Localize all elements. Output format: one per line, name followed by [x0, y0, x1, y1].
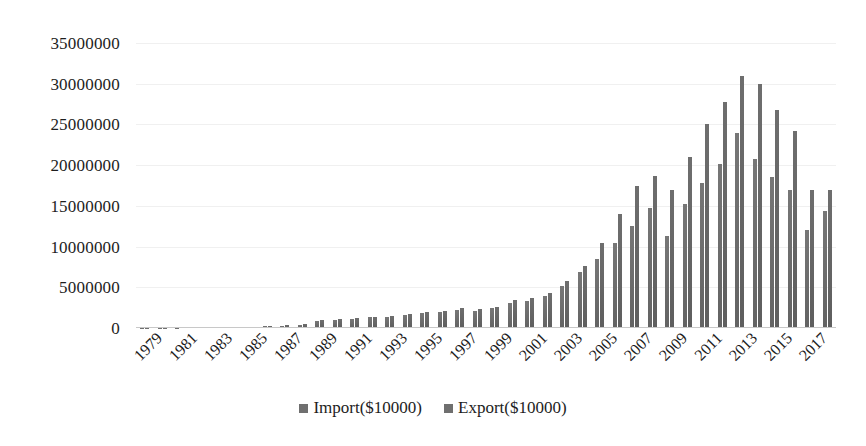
bar-group	[661, 43, 679, 328]
bar-export	[705, 124, 709, 328]
bar-group	[679, 43, 697, 328]
bar-export	[670, 190, 674, 328]
bar-group	[451, 43, 469, 328]
bar-export	[443, 311, 447, 329]
bar-group	[714, 43, 732, 328]
bar-group	[749, 43, 767, 328]
x-axis-tick-label: 1995	[411, 330, 445, 364]
bar-export	[828, 190, 832, 328]
x-axis-tick-label: 1989	[306, 330, 340, 364]
y-axis-tick-label: 5000000	[59, 279, 120, 296]
bar-group	[381, 43, 399, 328]
bar-import	[438, 312, 442, 328]
bar-group	[819, 43, 837, 328]
bar-import	[420, 313, 424, 328]
bar-group	[486, 43, 504, 328]
bar-export	[408, 314, 412, 328]
bar-group	[434, 43, 452, 328]
bar-import	[630, 226, 634, 328]
y-axis-tick-label: 20000000	[50, 157, 120, 174]
bar-import	[805, 230, 809, 328]
bar-group	[556, 43, 574, 328]
bar-export	[740, 76, 744, 328]
bar-group	[609, 43, 627, 328]
x-axis-tick-label: 2001	[516, 330, 550, 364]
bar-import	[718, 164, 722, 328]
bar-group	[801, 43, 819, 328]
bar-group	[731, 43, 749, 328]
bar-import	[560, 286, 564, 328]
bar-export	[688, 157, 692, 328]
x-axis-tick-label: 2007	[621, 330, 655, 364]
bar-chart: 3500000030000000250000002000000015000000…	[0, 0, 866, 446]
bar-import	[595, 259, 599, 328]
bar-group	[154, 43, 172, 328]
bar-group	[626, 43, 644, 328]
bar-import	[648, 208, 652, 329]
bar-import	[735, 133, 739, 328]
bar-group	[539, 43, 557, 328]
x-axis-tick-label: 2013	[726, 330, 760, 364]
x-axis-tick-label: 2011	[692, 330, 726, 364]
bar-group	[171, 43, 189, 328]
bar-group	[591, 43, 609, 328]
x-axis-tick-label: 1983	[201, 330, 235, 364]
bar-export	[600, 243, 604, 329]
bar-import	[788, 190, 792, 328]
bar-group	[259, 43, 277, 328]
y-axis-labels: 3500000030000000250000002000000015000000…	[0, 43, 128, 328]
bar-group	[644, 43, 662, 328]
bar-import	[508, 303, 512, 328]
bar-group	[364, 43, 382, 328]
bar-export	[635, 186, 639, 328]
bar-export	[425, 312, 429, 328]
bar-group	[346, 43, 364, 328]
x-axis-tick-label: 1993	[376, 330, 410, 364]
x-axis-tick-label: 1981	[166, 330, 200, 364]
x-axis-tick-label: 2017	[796, 330, 830, 364]
bar-group	[784, 43, 802, 328]
bar-import	[753, 159, 757, 328]
x-axis-labels: 1979198119831985198719891991199319951997…	[136, 330, 836, 396]
bar-export	[618, 214, 622, 328]
bar-group	[521, 43, 539, 328]
legend-swatch-icon	[299, 404, 308, 413]
legend-label: Export($10000)	[458, 398, 567, 418]
bar-import	[683, 204, 687, 328]
bar-export	[460, 308, 464, 328]
bar-export	[478, 309, 482, 328]
bar-group	[276, 43, 294, 328]
y-axis-tick-label: 10000000	[50, 238, 120, 255]
bar-group	[399, 43, 417, 328]
x-axis-tick-label: 1987	[271, 330, 305, 364]
bar-group	[574, 43, 592, 328]
bar-import	[770, 177, 774, 328]
bar-group	[294, 43, 312, 328]
bar-import	[455, 310, 459, 328]
x-axis-tick-label: 1997	[446, 330, 480, 364]
bar-group	[416, 43, 434, 328]
chart-legend: Import($10000)Export($10000)	[0, 398, 866, 418]
bar-series-container	[136, 43, 836, 328]
bar-export	[530, 298, 534, 328]
bar-group	[469, 43, 487, 328]
legend-label: Import($10000)	[313, 398, 422, 418]
x-axis-tick-label: 1991	[341, 330, 375, 364]
bar-group	[311, 43, 329, 328]
x-axis-line	[136, 327, 836, 328]
x-axis-tick-label: 1999	[481, 330, 515, 364]
bar-export	[810, 190, 814, 328]
bar-group	[206, 43, 224, 328]
bar-import	[525, 301, 529, 328]
bar-import	[665, 236, 669, 328]
bar-export	[548, 293, 552, 328]
plot-area	[136, 43, 836, 328]
legend-item[interactable]: Export($10000)	[444, 398, 567, 418]
y-axis-tick-label: 35000000	[50, 35, 120, 52]
x-axis-tick-label: 2003	[551, 330, 585, 364]
y-axis-tick-label: 30000000	[50, 75, 120, 92]
legend-item[interactable]: Import($10000)	[299, 398, 422, 418]
bar-import	[578, 272, 582, 328]
bar-export	[793, 131, 797, 328]
bar-group	[224, 43, 242, 328]
